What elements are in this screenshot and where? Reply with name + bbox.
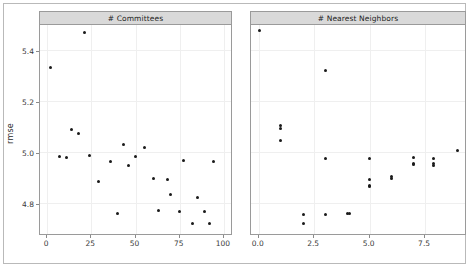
data-point	[279, 127, 282, 130]
data-point	[83, 31, 86, 34]
x-tick-label: 0	[44, 239, 49, 248]
x-tick-mark	[46, 235, 47, 238]
data-point	[127, 164, 130, 167]
y-tick-label: 5.4	[14, 46, 34, 55]
data-point	[456, 149, 459, 152]
data-point	[412, 156, 415, 159]
strip-label: # Nearest Neighbors	[318, 14, 398, 23]
data-point	[432, 164, 435, 167]
data-point	[191, 222, 194, 225]
y-tick-label: 5.0	[14, 149, 34, 158]
x-tick-mark	[369, 235, 370, 238]
x-axis-committees: 0255075100	[39, 235, 232, 253]
panel-strip-header-nearest-neighbors: # Nearest Neighbors	[250, 11, 466, 25]
x-axis-nearest-neighbors: 0.02.55.07.5	[250, 235, 466, 253]
x-tick-label: 100	[216, 239, 230, 248]
data-point	[116, 212, 119, 215]
x-tick-label: 25	[86, 239, 96, 248]
x-tick-mark	[424, 235, 425, 238]
data-point	[88, 154, 91, 157]
data-point	[368, 178, 371, 181]
grid-line-horizontal	[40, 203, 231, 204]
x-tick-label: 7.5	[418, 239, 430, 248]
data-point	[203, 210, 206, 213]
grid-line-horizontal	[40, 152, 231, 153]
y-axis-tick-labels: 5.45.25.04.8	[12, 0, 34, 267]
strip-label: # Committees	[108, 14, 163, 23]
data-point	[97, 180, 100, 183]
data-point	[324, 157, 327, 160]
x-tick-mark	[90, 235, 91, 238]
data-point	[77, 132, 80, 135]
data-point	[212, 160, 215, 163]
data-point	[258, 29, 261, 32]
data-point	[348, 212, 351, 215]
data-point	[432, 157, 435, 160]
data-point	[368, 185, 371, 188]
x-tick-mark	[135, 235, 136, 238]
data-point	[279, 139, 282, 142]
data-point	[134, 155, 137, 158]
data-point	[368, 157, 371, 160]
data-point	[182, 159, 185, 162]
grid-line-horizontal	[40, 101, 231, 102]
grid-line-horizontal	[251, 152, 465, 153]
x-tick-mark	[313, 235, 314, 238]
data-point	[49, 66, 52, 69]
data-point	[324, 213, 327, 216]
x-tick-mark	[258, 235, 259, 238]
data-point	[143, 146, 146, 149]
plot-area-committees	[39, 25, 232, 235]
x-tick-mark	[223, 235, 224, 238]
x-tick-label: 0.0	[252, 239, 264, 248]
data-point	[302, 213, 305, 216]
grid-line-horizontal	[251, 101, 465, 102]
data-point	[178, 210, 181, 213]
plot-area-nearest-neighbors	[250, 25, 466, 235]
data-point	[152, 177, 155, 180]
x-tick-label: 75	[174, 239, 184, 248]
data-point	[208, 222, 211, 225]
data-point	[390, 177, 393, 180]
x-tick-label: 2.5	[307, 239, 319, 248]
grid-line-horizontal	[251, 50, 465, 51]
data-point	[166, 178, 169, 181]
data-point	[109, 160, 112, 163]
y-tick-label: 5.2	[14, 97, 34, 106]
data-point	[70, 128, 73, 131]
scatter-plot-figure: rmse 5.45.25.04.8 # Committees # Nearest…	[0, 0, 469, 267]
data-point	[302, 222, 305, 225]
grid-line-horizontal	[40, 50, 231, 51]
x-tick-label: 50	[130, 239, 140, 248]
data-point	[157, 209, 160, 212]
data-point	[324, 69, 327, 72]
panel-nearest-neighbors: # Nearest Neighbors	[250, 11, 466, 235]
y-tick-label: 4.8	[14, 200, 34, 209]
panel-strip-header-committees: # Committees	[39, 11, 232, 25]
data-point	[412, 163, 415, 166]
data-point	[169, 193, 172, 196]
data-point	[65, 156, 68, 159]
data-point	[196, 196, 199, 199]
x-tick-label: 5.0	[363, 239, 375, 248]
x-tick-mark	[179, 235, 180, 238]
data-point	[122, 143, 125, 146]
panel-committees: # Committees	[39, 11, 232, 235]
grid-line-horizontal	[251, 203, 465, 204]
data-point	[58, 155, 61, 158]
